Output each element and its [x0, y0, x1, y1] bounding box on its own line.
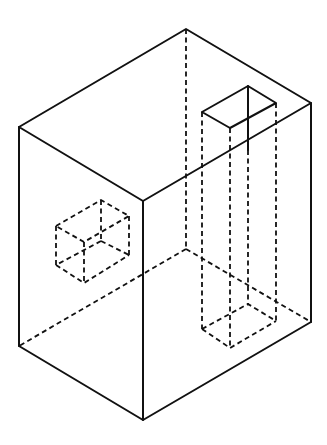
pillar-hidden-edges	[202, 103, 276, 348]
small-cube-hidden	[56, 200, 129, 283]
pillar-top-face	[202, 86, 276, 150]
box-visible-edges	[19, 29, 311, 420]
isometric-box-diagram	[0, 0, 327, 445]
